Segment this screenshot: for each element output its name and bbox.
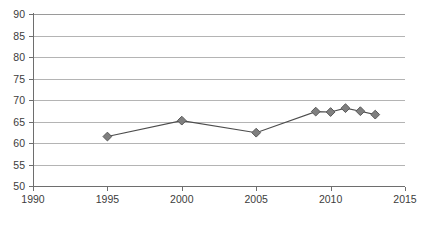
data-point-2005 — [252, 128, 261, 137]
data-point-2012 — [356, 107, 365, 116]
data-point-2000 — [177, 116, 186, 125]
data-point-1995 — [103, 132, 112, 141]
series-graphic — [0, 0, 426, 229]
data-point-markers — [103, 104, 380, 141]
data-point-2009 — [311, 107, 320, 116]
line-chart: 505560657075808590 199019952000200520102… — [0, 0, 426, 229]
data-point-2010 — [326, 108, 335, 117]
data-point-2013 — [371, 110, 380, 119]
data-point-2011 — [341, 104, 350, 113]
